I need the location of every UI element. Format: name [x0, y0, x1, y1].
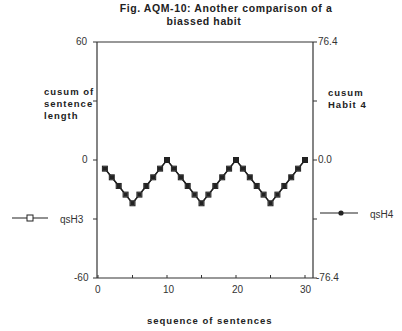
marker-qsh4 [144, 184, 148, 188]
marker-qsh4 [248, 175, 252, 179]
marker-qsh4 [213, 184, 217, 188]
marker-qsh4 [179, 175, 183, 179]
marker-qsh4 [282, 184, 286, 188]
marker-qsh4 [234, 158, 238, 162]
legend-marker-qsh3 [27, 215, 33, 221]
marker-qsh4 [199, 201, 203, 205]
plot-axes [93, 42, 317, 278]
marker-qsh4 [296, 166, 300, 170]
marker-qsh4 [192, 192, 196, 196]
marker-qsh4 [261, 192, 265, 196]
marker-qsh4 [255, 184, 259, 188]
legend-marker-qsh4 [338, 210, 343, 215]
chart-plot [0, 0, 402, 331]
marker-qsh4 [268, 201, 272, 205]
marker-qsh4 [241, 166, 245, 170]
marker-qsh4 [186, 184, 190, 188]
marker-qsh4 [289, 175, 293, 179]
marker-qsh4 [172, 166, 176, 170]
marker-qsh4 [130, 201, 134, 205]
marker-qsh4 [103, 166, 107, 170]
marker-qsh4 [206, 192, 210, 196]
marker-qsh4 [165, 158, 169, 162]
marker-qsh4 [303, 158, 307, 162]
marker-qsh4 [227, 166, 231, 170]
marker-qsh4 [137, 192, 141, 196]
legend-glyphs [12, 210, 358, 221]
marker-qsh4 [151, 175, 155, 179]
marker-qsh4 [158, 166, 162, 170]
marker-qsh4 [275, 192, 279, 196]
marker-qsh4 [123, 192, 127, 196]
marker-qsh4 [220, 175, 224, 179]
marker-qsh4 [117, 184, 121, 188]
marker-qsh4 [110, 175, 114, 179]
